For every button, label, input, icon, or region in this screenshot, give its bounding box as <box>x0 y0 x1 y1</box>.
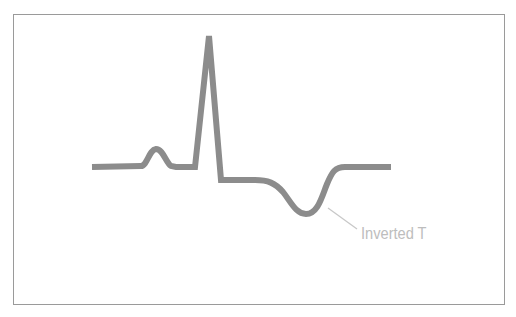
ecg-diagram <box>0 0 516 317</box>
annotation-leader-line <box>328 208 357 229</box>
ecg-waveform-line <box>92 36 391 214</box>
inverted-t-label: Inverted T <box>361 224 427 244</box>
